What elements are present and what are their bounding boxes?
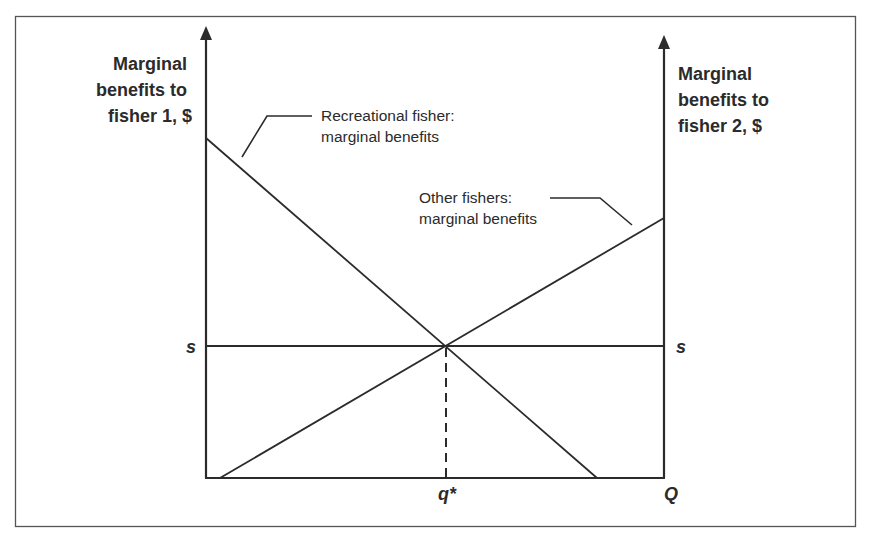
q-axis-label: Q	[664, 484, 678, 504]
left-axis-label: Marginal benefits to fisher 1, $	[96, 54, 192, 126]
recreational-annotation: Recreational fisher: marginal benefits	[321, 107, 459, 145]
left-axis-arrow-icon	[200, 26, 212, 40]
other-fishers-annotation: Other fishers: marginal benefits	[419, 189, 537, 227]
right-axis-arrow-icon	[658, 35, 670, 49]
diagram-canvas: Marginal benefits to fisher 1, $ Margina…	[0, 0, 873, 538]
s-right-label: s	[676, 337, 686, 357]
other-fishers-mb-line	[220, 218, 664, 478]
other-leader-line	[550, 198, 632, 225]
s-left-label: s	[186, 337, 196, 357]
recreational-mb-line	[206, 138, 597, 478]
q-star-label: q*	[438, 484, 457, 504]
recreational-leader-line	[242, 116, 312, 157]
right-axis-label: Marginal benefits to fisher 2, $	[678, 64, 774, 136]
